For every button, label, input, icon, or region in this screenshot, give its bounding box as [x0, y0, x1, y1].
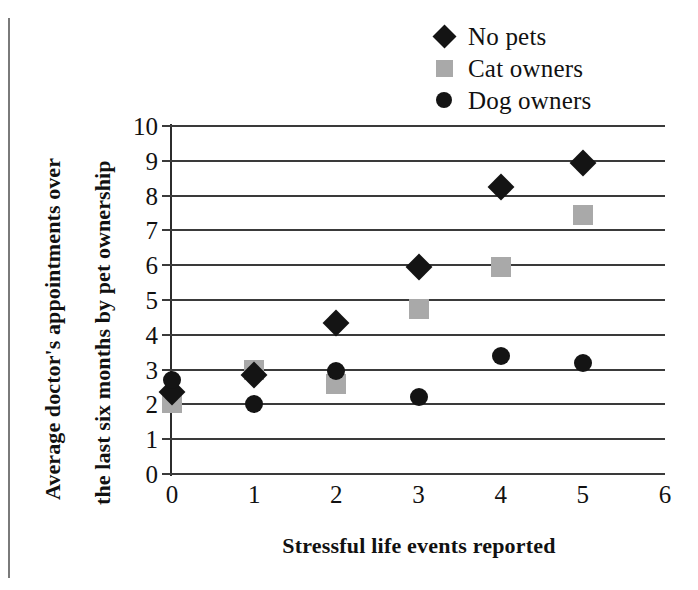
data-point-no-pets: [405, 254, 432, 281]
y-axis-tick-label: 4: [146, 322, 159, 347]
legend-item-dog-owners: Dog owners: [430, 84, 680, 116]
gridline: [172, 334, 665, 336]
y-axis-title-line-2: the last six months by pet ownership: [90, 160, 116, 505]
gridline: [172, 125, 665, 127]
data-point-dog-owners: [163, 371, 181, 389]
y-axis-tick-label: 1: [146, 427, 159, 452]
y-axis-tick-label: 7: [146, 218, 159, 243]
y-axis-tick: [162, 160, 172, 162]
data-point-dog-owners: [574, 354, 592, 372]
gridline: [172, 229, 665, 231]
y-axis-tick-label: 6: [146, 253, 159, 278]
y-axis-tick: [162, 299, 172, 301]
legend-item-cat-owners: Cat owners: [430, 52, 680, 84]
data-point-cat-owners: [573, 205, 593, 225]
gridline: [172, 438, 665, 440]
data-point-no-pets: [323, 309, 350, 336]
data-point-dog-owners: [245, 395, 263, 413]
y-axis-tick-label: 10: [133, 114, 158, 139]
data-point-cat-owners: [491, 257, 511, 277]
circle-marker-icon: [430, 92, 458, 108]
plot-area: 0123456789100123456: [172, 126, 665, 474]
y-axis-tick: [162, 264, 172, 266]
square-marker-icon: [430, 60, 458, 77]
y-axis-tick-label: 9: [146, 148, 159, 173]
y-axis-tick: [162, 229, 172, 231]
gridline: [172, 195, 665, 197]
data-point-dog-owners: [327, 362, 345, 380]
gridline: [172, 473, 665, 475]
legend-item-no-pets: No pets: [430, 20, 680, 52]
legend-label-cat-owners: Cat owners: [458, 56, 583, 81]
legend-label-no-pets: No pets: [458, 24, 546, 49]
y-axis-tick: [162, 438, 172, 440]
x-axis-tick-label: 2: [330, 482, 343, 507]
diamond-marker-icon: [430, 28, 458, 45]
x-axis-tick-label: 3: [412, 482, 425, 507]
x-axis-tick-label: 4: [494, 482, 507, 507]
y-axis-tick-label: 8: [146, 183, 159, 208]
data-point-no-pets: [569, 149, 596, 176]
legend-label-dog-owners: Dog owners: [458, 88, 592, 113]
x-axis-title: Stressful life events reported: [172, 533, 666, 559]
x-axis-tick-label: 5: [577, 482, 590, 507]
y-axis-title: Average doctor's appointments over the l…: [0, 0, 120, 520]
x-axis-tick-label: 0: [166, 482, 179, 507]
y-axis-tick-label: 3: [146, 357, 159, 382]
y-axis-tick-label: 0: [146, 462, 159, 487]
y-axis-tick: [162, 125, 172, 127]
y-axis-tick: [162, 195, 172, 197]
x-axis-tick-label: 1: [248, 482, 261, 507]
y-axis-title-line-1: Average doctor's appointments over: [40, 158, 66, 500]
data-point-dog-owners: [410, 388, 428, 406]
y-axis-tick-label: 5: [146, 288, 159, 313]
chart-legend: No pets Cat owners Dog owners: [430, 20, 680, 116]
y-axis-tick: [162, 334, 172, 336]
x-axis-tick-label: 6: [659, 482, 672, 507]
y-axis-tick-label: 2: [146, 392, 159, 417]
y-axis-tick: [162, 473, 172, 475]
data-point-dog-owners: [492, 347, 510, 365]
data-point-cat-owners: [409, 299, 429, 319]
